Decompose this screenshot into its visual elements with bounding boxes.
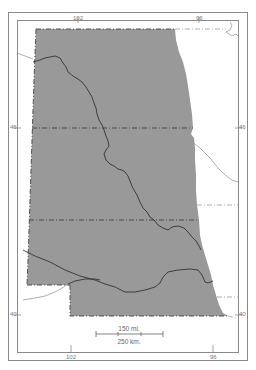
- latitude-label-right-46: 46: [239, 124, 246, 131]
- longitude-label-top-102: 102: [73, 15, 83, 22]
- longitude-label-bottom-96: 96: [210, 354, 217, 361]
- latitude-label-left-40: 40: [10, 311, 17, 318]
- latitude-label-left-46: 46: [10, 124, 17, 131]
- latitude-label-right-40: 40: [239, 311, 246, 318]
- scale-label-km: 250 km.: [99, 338, 159, 345]
- longitude-label-top-96: 96: [196, 15, 203, 22]
- longitude-label-bottom-102: 102: [66, 354, 76, 361]
- map-canvas: [0, 0, 256, 370]
- scale-label-miles: 150 mi.: [99, 325, 159, 332]
- shaded-region: [27, 29, 228, 316]
